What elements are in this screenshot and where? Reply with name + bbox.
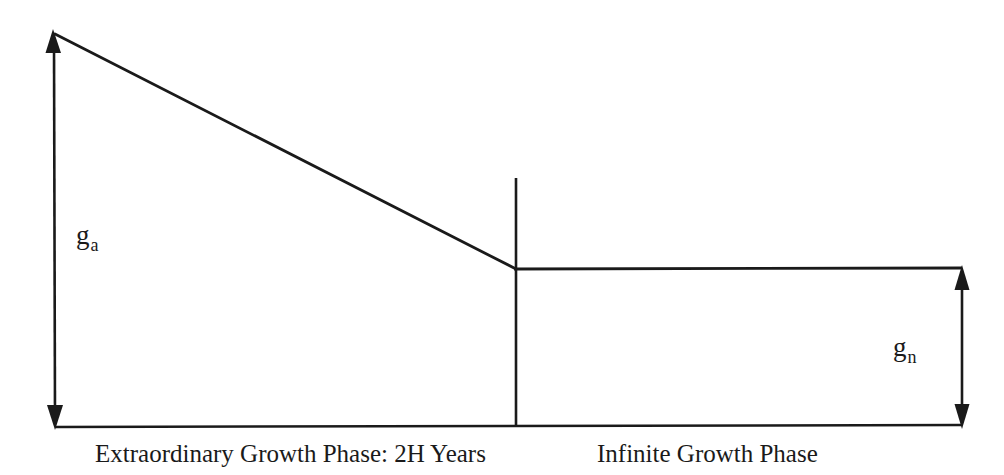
caption-infinite-growth-phase: Infinite Growth Phase: [597, 441, 818, 466]
growth-phase-diagram: ga gn Extraordinary Growth Phase: 2H Yea…: [0, 0, 1004, 475]
baseline-axis: [55, 425, 962, 427]
ga-arrow-head-up: [46, 29, 62, 53]
ga-base-symbol: g: [76, 220, 90, 250]
gn-subscript: n: [908, 347, 917, 367]
ga-subscript: a: [91, 235, 99, 255]
ga-arrow-shaft: [54, 42, 55, 419]
diagram-canvas: [0, 0, 1004, 475]
declining-growth-line: [55, 34, 516, 269]
gn-base-symbol: g: [893, 332, 907, 362]
ga-measure-arrow: [46, 29, 64, 430]
caption-extraordinary-growth-phase: Extraordinary Growth Phase: 2H Years: [95, 441, 486, 466]
growth-rate-extraordinary-label: ga: [76, 222, 98, 249]
stable-growth-line: [514, 268, 962, 269]
growth-rate-stable-label: gn: [893, 334, 916, 361]
gn-measure-arrow: [955, 265, 970, 429]
